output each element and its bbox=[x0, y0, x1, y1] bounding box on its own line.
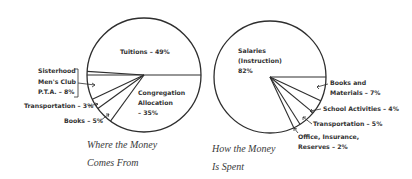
expense-wedge-boundary bbox=[270, 77, 294, 128]
income-slice-label: SisterhoodMen's ClubP.T.A. – 8% bbox=[38, 67, 77, 95]
expense-pie-chart: Books andMaterials – 7%School Activities… bbox=[211, 21, 399, 172]
income-slice-label: Transportation – 3% bbox=[24, 102, 93, 110]
expense-slice-label: Transportation – 5% bbox=[313, 120, 382, 128]
income-slice-label: Tuitions – 49% bbox=[120, 48, 170, 55]
expense-slice-label: Salaries(Instruction)82% bbox=[238, 47, 282, 74]
caption-income-line2: Comes From bbox=[87, 157, 139, 168]
caption-expense-line2: Is Spent bbox=[211, 161, 244, 172]
expense-pie-labels: Books andMaterials – 7%School Activities… bbox=[238, 47, 399, 150]
expense-slice-label: Books andMaterials – 7% bbox=[330, 79, 381, 96]
expense-wedge-boundary bbox=[270, 77, 313, 113]
income-pie-leaders bbox=[74, 69, 109, 121]
income-pie-chart: Tuitions – 49%SisterhoodMen's ClubP.T.A.… bbox=[24, 18, 201, 168]
expense-slice-label: Office, Insurance,Reserves – 2% bbox=[298, 133, 359, 150]
income-pie-labels: Tuitions – 49%SisterhoodMen's ClubP.T.A.… bbox=[24, 48, 185, 124]
income-slice-label: Books – 5% bbox=[64, 117, 103, 124]
caption-expense-line1: How the Money bbox=[211, 143, 276, 154]
income-wedge-boundary bbox=[92, 75, 144, 99]
income-slice-label: CongregationAllocation– 35% bbox=[138, 89, 185, 116]
caption-income-line1: Where the Money bbox=[87, 139, 158, 150]
expense-slice-label: School Activities – 4% bbox=[323, 105, 399, 112]
figure: Tuitions – 49%SisterhoodMen's ClubP.T.A.… bbox=[0, 0, 412, 179]
pie-charts-svg: Tuitions – 49%SisterhoodMen's ClubP.T.A.… bbox=[0, 0, 412, 179]
